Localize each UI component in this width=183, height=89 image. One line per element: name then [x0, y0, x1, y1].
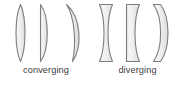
label-diverging: diverging [92, 64, 183, 77]
lens-captions: converging diverging [0, 64, 183, 89]
lens-positive-meniscus [67, 5, 80, 62]
label-converging: converging [0, 64, 92, 77]
lens-plano-concave [127, 5, 140, 62]
lens-types-diagram: converging diverging [0, 0, 183, 89]
lens-biconvex [16, 5, 25, 62]
lens-plano-convex [41, 5, 48, 62]
lens-negative-meniscus [154, 5, 169, 62]
lens-biconcave [100, 5, 113, 62]
